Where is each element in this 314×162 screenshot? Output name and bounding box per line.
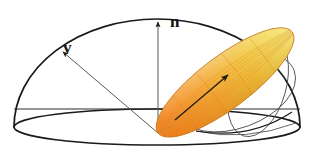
normal-vector-label: n	[170, 12, 180, 31]
view-vector-label: v	[63, 38, 72, 57]
view-vector-line	[63, 52, 158, 133]
diagram-canvas: n v	[0, 0, 314, 162]
brdf-lobe-diagram: n v	[0, 0, 314, 162]
